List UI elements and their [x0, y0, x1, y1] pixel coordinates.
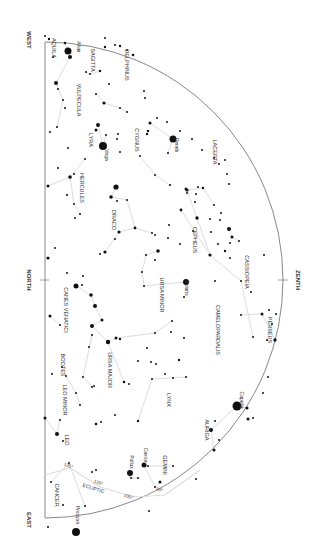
star: [102, 101, 105, 104]
star: [166, 121, 168, 123]
star: [84, 505, 86, 507]
constellation-line: [140, 156, 170, 185]
star: [218, 439, 220, 441]
star: [79, 213, 81, 215]
constellation-line: [83, 335, 92, 387]
star: [68, 55, 72, 59]
star: [68, 175, 72, 179]
constellation-label: GEMINI: [162, 455, 168, 475]
star: [119, 151, 121, 153]
star: [56, 126, 58, 128]
constellation-label: LYNX: [166, 393, 172, 407]
star: [167, 237, 169, 239]
star: [227, 227, 231, 231]
constellation-label: LACERTA: [212, 140, 218, 165]
constellation-line: [96, 94, 127, 112]
star: [128, 383, 130, 385]
star: [95, 129, 98, 132]
star: [55, 432, 59, 436]
star: [151, 232, 153, 234]
constellation-line: [116, 321, 172, 338]
star: [213, 204, 215, 206]
constellation-label: URSA MINOR: [159, 278, 165, 313]
star: [183, 296, 185, 298]
star: [217, 243, 219, 245]
star: [82, 376, 84, 378]
constellation-line: [50, 316, 60, 325]
star: [268, 309, 270, 311]
star: [93, 304, 97, 308]
named-stars: AltairDenebVegaPolarisCapellaCastorPollu…: [65, 41, 246, 536]
star: [197, 186, 199, 188]
star: [130, 477, 132, 479]
star: [134, 227, 137, 230]
star: [219, 219, 221, 221]
star: [143, 90, 145, 92]
star: [252, 417, 254, 419]
star: [85, 71, 87, 73]
constellation-labels: AQUILASAGITTADELPHINUSVULPECULALYRACYGNU…: [51, 38, 273, 507]
constellation-label: CANCER: [54, 483, 60, 506]
constellation-label: SAGITTA: [90, 48, 96, 71]
star: [151, 378, 153, 380]
star: [229, 257, 231, 259]
star: [137, 420, 139, 422]
star: [89, 293, 93, 297]
constellation-label: LEO MINOR: [62, 385, 68, 416]
star: [149, 122, 152, 125]
star: [104, 37, 106, 39]
star: [186, 192, 188, 194]
star: [262, 392, 264, 394]
star: [148, 510, 150, 512]
star: [231, 236, 234, 239]
star: [91, 386, 93, 388]
star: [114, 414, 116, 416]
star: [146, 347, 148, 349]
star-label: Vega: [104, 149, 110, 161]
star: [195, 193, 197, 195]
star: [95, 469, 97, 471]
star: [170, 331, 172, 333]
constellation-label: DELPHINUS: [124, 49, 130, 81]
constellation-line: [211, 406, 247, 430]
star: [172, 377, 174, 379]
star: [168, 224, 170, 226]
star: [183, 337, 185, 339]
star: [123, 381, 126, 384]
star: [49, 131, 51, 133]
constellation-label: CEPHEUS: [192, 227, 198, 254]
star: [146, 133, 148, 135]
constellation-label: URSA MAJOR: [107, 352, 113, 388]
star: [172, 465, 174, 467]
direction-north: NORTH: [26, 269, 32, 290]
star: [119, 338, 121, 340]
star: [167, 152, 169, 154]
star: [252, 336, 254, 338]
star: [132, 54, 135, 57]
ecliptic-line: [45, 468, 200, 497]
star: [51, 373, 53, 375]
star: [247, 418, 250, 421]
star: [178, 359, 180, 361]
star: [109, 195, 113, 199]
star: [169, 184, 171, 186]
constellation-label: CASSIOPEIA: [244, 255, 250, 289]
star: [156, 117, 158, 119]
star: [117, 230, 120, 233]
ecliptic-degree: 105°: [123, 493, 134, 501]
star-label: Castor: [143, 448, 149, 463]
star: [154, 234, 156, 236]
star: [185, 188, 188, 191]
constellation-line: [150, 123, 173, 153]
star: [145, 254, 147, 256]
constellation-label: VULPECULA: [76, 84, 82, 117]
star: [104, 46, 106, 48]
star: [228, 183, 230, 185]
star: [201, 149, 203, 151]
star: [144, 97, 146, 99]
star: [46, 256, 49, 259]
star: [117, 133, 119, 135]
star-label: Procyon: [75, 506, 81, 525]
star: [119, 45, 121, 47]
star: [64, 107, 66, 109]
